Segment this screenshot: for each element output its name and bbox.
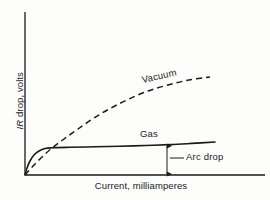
series-label-gas: Gas: [140, 129, 158, 139]
y-axis-label-symbol: IR: [14, 120, 25, 130]
arc-drop-label: Arc drop: [186, 152, 224, 162]
y-axis-label-text: drop, volts: [14, 72, 25, 120]
figure-current-vs-ir-drop: IR drop, volts Current, milliamperes Vac…: [0, 0, 270, 200]
plot-area: [0, 0, 270, 200]
curve-vacuum: [25, 77, 210, 175]
x-axis-label: Current, milliamperes: [61, 181, 221, 191]
y-axis-label: IR drop, volts: [15, 53, 25, 149]
